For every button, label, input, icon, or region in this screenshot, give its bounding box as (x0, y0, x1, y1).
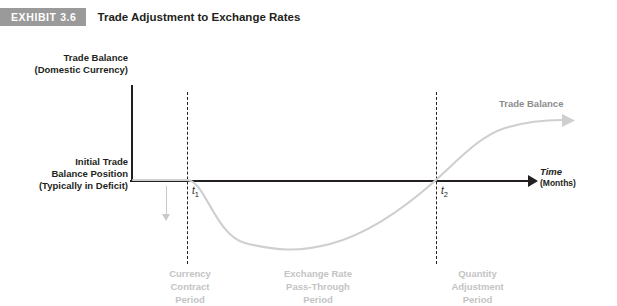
period2-line2: Pass-Through (278, 281, 358, 294)
period1-line2: Contract (160, 281, 220, 294)
period3-line1: Quantity (440, 268, 515, 281)
trade-balance-curve (0, 30, 617, 293)
period-label-quantity-adjustment: Quantity Adjustment Period (440, 268, 515, 306)
exhibit-header: EXHIBIT 3.6 Trade Adjustment to Exchange… (0, 6, 300, 28)
period3-line2: Adjustment (440, 281, 515, 294)
period-label-currency-contract: Currency Contract Period (160, 268, 220, 306)
period1-line3: Period (160, 294, 220, 306)
period1-line1: Currency (160, 268, 220, 281)
period-label-exchange-rate-pass-through: Exchange Rate Pass-Through Period (278, 268, 358, 306)
series-label-trade-balance: Trade Balance (499, 98, 563, 109)
period3-line3: Period (440, 294, 515, 306)
exhibit-title: Trade Adjustment to Exchange Rates (98, 11, 301, 23)
chart-canvas: Trade Balance (Domestic Currency) Initia… (0, 30, 617, 293)
period2-line3: Period (278, 294, 358, 306)
period2-line1: Exchange Rate (278, 268, 358, 281)
exhibit-number-badge: EXHIBIT 3.6 (0, 8, 86, 27)
